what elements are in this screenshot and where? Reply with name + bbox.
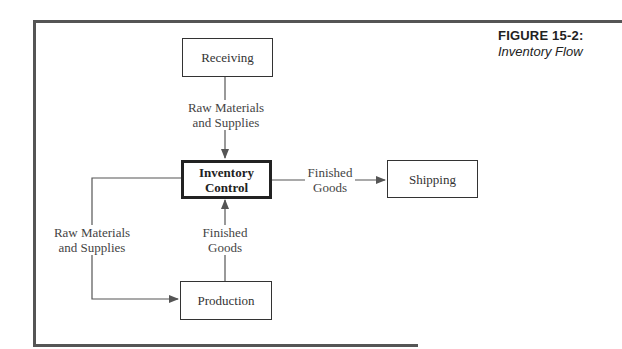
node-inventory-control: Inventory Control <box>181 160 272 199</box>
edge-label-line: Raw Materials <box>53 225 131 240</box>
edge-label-receiving-to-ic: Raw Materials and Supplies <box>183 100 269 130</box>
figure-caption: FIGURE 15-2: Inventory Flow <box>498 28 583 60</box>
node-inventory-control-label-1: Inventory <box>199 165 254 180</box>
node-inventory-control-label-2: Control <box>205 180 248 195</box>
edge-label-line: Goods <box>200 240 250 255</box>
edge-label-line: Goods <box>305 180 355 195</box>
edge-label-production-to-ic: Finished Goods <box>200 225 250 255</box>
node-shipping-label: Shipping <box>409 172 456 187</box>
edge-label-line: Finished <box>200 225 250 240</box>
diagram-canvas: Receiving Inventory Control Shipping Pro… <box>0 0 622 349</box>
edge-label-line: Finished <box>305 165 355 180</box>
figure-number: FIGURE 15-2: <box>498 28 583 44</box>
node-shipping: Shipping <box>387 160 478 198</box>
figure-title: Inventory Flow <box>498 44 583 60</box>
node-receiving: Receiving <box>182 38 273 77</box>
edge-label-line: and Supplies <box>183 115 269 130</box>
edge-label-ic-to-shipping: Finished Goods <box>305 165 355 195</box>
edge-label-line: and Supplies <box>53 240 131 255</box>
edge-label-ic-to-production: Raw Materials and Supplies <box>53 225 131 255</box>
edge-label-line: Raw Materials <box>183 100 269 115</box>
node-receiving-label: Receiving <box>201 50 254 65</box>
node-production-label: Production <box>197 293 254 308</box>
node-production: Production <box>180 281 272 320</box>
